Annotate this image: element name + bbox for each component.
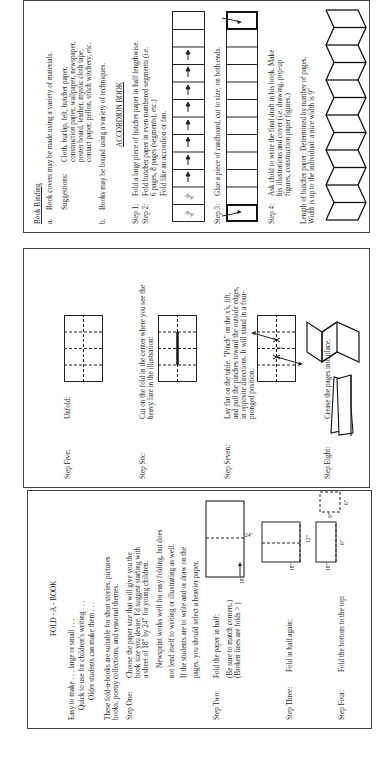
book-binding-title: Book Binding [34, 183, 43, 224]
suggestions-line: contact paper, pellon, stitch witchery, … [85, 43, 94, 162]
svg-text:6": 6" [343, 500, 349, 505]
svg-text:18": 18" [239, 576, 245, 584]
step2-label: Step Two: [213, 691, 222, 720]
fold-half-again-diagram: 18" 12" [260, 513, 302, 563]
panel-steps-five-to-eight: Step Five: Unfold: Step Six: Cut on the … [23, 248, 370, 488]
step4-text: Fold the bottom to the top: [338, 595, 347, 672]
svg-text:6": 6" [339, 540, 345, 545]
step7-line: pronged position. [248, 369, 257, 419]
unfolded-grid-diagram [64, 314, 104, 382]
fold-bottom-diagram: 18" 6" [314, 513, 354, 563]
step2-line: 6 pages, 8 pages (segments), etc.) [150, 99, 159, 196]
step4-label: Step 4: [268, 204, 277, 224]
step4-line: figures, construction paper figures.) [284, 93, 293, 196]
item-a-marker: a. [46, 219, 55, 224]
item-b-text: Books may be bound using a variety of te… [99, 63, 108, 210]
step4-label: Step Four: [338, 690, 347, 720]
svg-text:18": 18" [289, 563, 295, 571]
step1-label: Step 1: [132, 204, 141, 224]
svg-text:fold: fold [184, 209, 194, 217]
creased-book-diagram [329, 372, 381, 437]
cut-line-diagram [158, 314, 198, 382]
svg-text:fold: fold [184, 192, 194, 200]
step3-text: Glue a piece of cardboard, cut to size, … [214, 47, 223, 196]
step2-text: Fold the paper in half: [213, 614, 222, 678]
step3-label: Step Three: [286, 687, 295, 720]
panel-book-binding: Book Binding a. Book covers may be made … [23, 0, 370, 233]
accordion-zigzag-diagram [322, 10, 366, 220]
cardboard-ends-diagram [226, 10, 260, 222]
four-pronged-diagram [307, 322, 362, 362]
fold-a-book-title: FOLD - A - BOOK [50, 580, 59, 636]
accordion-fold-diagram: fold fold [172, 10, 206, 222]
step5-text: Unfold: [64, 397, 73, 419]
svg-text:18": 18" [325, 563, 331, 571]
step2-sub: Fold like an accordion or fan. [160, 111, 169, 196]
svg-text:12": 12" [305, 535, 311, 543]
newsprint-line: If the students are to write and/or draw… [180, 547, 189, 678]
step1-text: Fold a large piece of butcher paper in h… [132, 41, 141, 196]
width-line: Width is up to the individual: a nice wi… [308, 88, 317, 224]
svg-text:9": 9" [327, 513, 333, 518]
item-a-text: Book covers may be made using a variety … [46, 52, 55, 210]
step1-label: Step One: [126, 691, 135, 720]
step8-label: Step Eight: [324, 447, 333, 479]
intro-line: Quick to use for children's writing . . … [78, 601, 87, 710]
suggestions-label: Suggestions: [61, 173, 70, 210]
step2-note: (Broken lines are folds > ) [234, 602, 243, 678]
step2-label: Step 2: [142, 204, 151, 224]
item-b-marker: b. [99, 219, 108, 224]
accordion-book-title: ACCORDION BOOK [116, 82, 125, 147]
step1-line: a sheet of 18" by 24" for young children… [142, 561, 151, 678]
folded-book-diagram: 9" 6" [318, 489, 358, 513]
newsprint-line: pages, you should select a heavier paper… [192, 561, 201, 678]
step7-label: Step Seven: [224, 445, 233, 479]
step3-label: Step 3: [214, 204, 223, 224]
intro-line: Easy to make . . . large or small . . . [68, 619, 77, 720]
pinch-diagram: cut [257, 314, 297, 382]
svg-text:24": 24" [245, 532, 253, 538]
newsprint-line: not lend itself to writing or illustrati… [168, 544, 177, 678]
svg-text:cut: cut [276, 346, 282, 351]
fold-half-diagram: 18" 24" [204, 498, 246, 578]
suitable-line: books, poetry collections, and seasonal … [112, 584, 121, 720]
step5-label: Step Five: [64, 450, 73, 479]
step3-text: Fold in half again: [286, 619, 295, 672]
intro-line: Older students can make them . . . [88, 602, 97, 700]
panel-fold-a-book: FOLD - A - BOOK Easy to make . . . large… [27, 490, 372, 729]
step6-line: heavy line in the illustration: [147, 336, 156, 419]
step6-label: Step Six: [139, 453, 148, 479]
newsprint-line: Newsprint works well for easy folding, b… [156, 529, 165, 668]
